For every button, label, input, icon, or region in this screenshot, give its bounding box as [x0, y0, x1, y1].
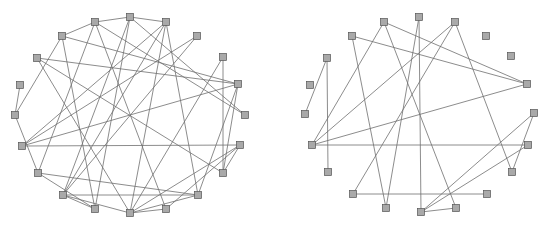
- graph-node: [59, 33, 66, 40]
- graph-edge: [198, 84, 238, 195]
- node-box: [452, 19, 459, 26]
- graph-node: [349, 33, 356, 40]
- graph-node: [350, 191, 357, 198]
- node-box: [127, 14, 134, 21]
- graph-edge: [223, 84, 238, 173]
- node-box: [163, 206, 170, 213]
- node-box: [220, 170, 227, 177]
- node-box: [418, 209, 425, 216]
- graph-edge: [352, 36, 527, 84]
- graph-edge: [312, 22, 384, 145]
- graph-node: [92, 19, 99, 26]
- graph-node: [237, 142, 244, 149]
- node-box: [220, 54, 227, 61]
- graph-node: [416, 14, 423, 21]
- graph-node: [418, 209, 425, 216]
- graph-node: [309, 142, 316, 149]
- node-box: [242, 112, 249, 119]
- graph-edge: [130, 17, 245, 115]
- graph-node: [484, 191, 491, 198]
- graph-edge: [22, 145, 240, 146]
- node-box: [383, 205, 390, 212]
- graph-node: [453, 205, 460, 212]
- graph-node: [163, 19, 170, 26]
- node-box: [416, 14, 423, 21]
- graph-node: [531, 110, 538, 117]
- diagram-canvas: [0, 0, 549, 227]
- graph-node: [163, 206, 170, 213]
- graph-edge: [352, 36, 386, 208]
- node-box: [307, 82, 314, 89]
- node-box: [325, 169, 332, 176]
- node-box: [92, 206, 99, 213]
- graph-edge: [421, 113, 534, 212]
- graph-node: [509, 169, 516, 176]
- graph-node: [60, 192, 67, 199]
- graph-node: [307, 82, 314, 89]
- graph-edge: [37, 58, 130, 213]
- graph-node: [525, 142, 532, 149]
- graph-edge: [384, 22, 527, 84]
- graph-edge: [15, 36, 62, 115]
- node-box: [453, 205, 460, 212]
- node-box: [509, 169, 516, 176]
- graph-node: [194, 33, 201, 40]
- node-box: [237, 142, 244, 149]
- graph-node: [383, 205, 390, 212]
- graph-node: [34, 55, 41, 62]
- graph-edge: [166, 22, 198, 195]
- graph-node: [508, 53, 515, 60]
- node-box: [484, 191, 491, 198]
- graph-node: [35, 170, 42, 177]
- node-box: [12, 112, 19, 119]
- graph-node: [302, 111, 309, 118]
- node-box: [309, 142, 316, 149]
- node-box: [483, 33, 490, 40]
- graph-edge: [327, 58, 328, 172]
- node-box: [163, 19, 170, 26]
- graph-edge: [38, 173, 95, 209]
- node-box: [195, 192, 202, 199]
- graph-edge: [95, 17, 130, 209]
- graph-edge: [63, 17, 130, 195]
- left-graph-edges: [15, 17, 245, 213]
- left-graph-panel: [12, 14, 249, 217]
- graph-node: [235, 81, 242, 88]
- node-box: [350, 191, 357, 198]
- graph-node: [452, 19, 459, 26]
- node-box: [127, 210, 134, 217]
- node-box: [531, 110, 538, 117]
- graph-node: [17, 82, 24, 89]
- right-graph-panel: [302, 14, 538, 216]
- graph-node: [220, 170, 227, 177]
- node-box: [17, 82, 24, 89]
- graph-node: [127, 210, 134, 217]
- graph-edge: [421, 145, 528, 212]
- node-box: [525, 142, 532, 149]
- graph-edge: [312, 22, 455, 145]
- graph-edge: [22, 22, 166, 146]
- graph-node: [242, 112, 249, 119]
- graph-edge: [386, 17, 419, 208]
- graph-edge: [353, 22, 455, 194]
- node-box: [59, 33, 66, 40]
- graph-node: [381, 19, 388, 26]
- node-box: [381, 19, 388, 26]
- graph-edge: [95, 17, 130, 22]
- graph-node: [483, 33, 490, 40]
- graph-edge: [37, 58, 238, 84]
- graph-node: [92, 206, 99, 213]
- node-box: [35, 170, 42, 177]
- graph-node: [127, 14, 134, 21]
- graph-node: [12, 112, 19, 119]
- graph-node: [195, 192, 202, 199]
- node-box: [524, 81, 531, 88]
- graph-node: [325, 169, 332, 176]
- graph-edge: [166, 145, 240, 209]
- graph-edge: [62, 22, 95, 36]
- node-box: [19, 143, 26, 150]
- node-box: [194, 33, 201, 40]
- node-box: [508, 53, 515, 60]
- node-box: [324, 55, 331, 62]
- node-box: [34, 55, 41, 62]
